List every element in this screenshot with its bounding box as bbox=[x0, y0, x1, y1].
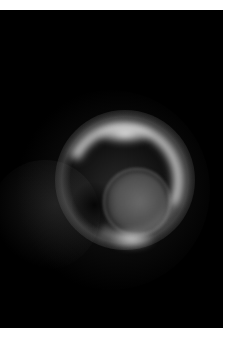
inner-disc-rim bbox=[103, 168, 171, 236]
arc-bright-top bbox=[95, 123, 155, 145]
astronomical-photo bbox=[0, 10, 223, 328]
